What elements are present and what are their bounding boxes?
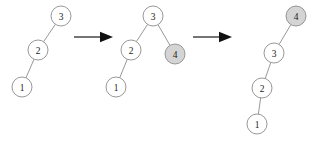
arrows-layer xyxy=(74,32,232,42)
tree-edge xyxy=(136,24,147,41)
arrow-head xyxy=(100,32,113,42)
node-label: 3 xyxy=(272,49,277,59)
tree-node-3: 3 xyxy=(264,43,284,63)
edges-layer xyxy=(26,24,291,114)
nodes-layer: 32132414321 xyxy=(12,6,306,134)
tree-edge xyxy=(279,25,291,45)
tree-node-2: 2 xyxy=(121,40,141,60)
transition-arrow-1 xyxy=(74,32,113,42)
tree-edge xyxy=(44,24,56,41)
tree-node-2: 2 xyxy=(28,40,48,60)
node-label: 1 xyxy=(20,83,25,93)
tree-node-3: 3 xyxy=(51,6,71,26)
tree-node-1: 1 xyxy=(12,77,32,97)
tree-node-1: 1 xyxy=(247,114,267,134)
arrow-head xyxy=(219,32,232,42)
node-label: 3 xyxy=(59,12,64,22)
tree-node-3: 3 xyxy=(143,6,163,26)
tree-node-2: 2 xyxy=(252,78,272,98)
tree-edge xyxy=(120,59,127,77)
node-label: 3 xyxy=(151,12,156,22)
tree-edge xyxy=(258,98,260,114)
node-label: 4 xyxy=(173,50,178,60)
node-label: 2 xyxy=(129,46,134,56)
tree-node-4: 4 xyxy=(165,44,185,64)
node-label: 4 xyxy=(294,12,299,22)
tree-edge xyxy=(265,62,271,78)
node-label: 2 xyxy=(36,46,41,56)
node-label: 1 xyxy=(114,83,119,93)
tree-edge xyxy=(158,25,170,46)
transition-arrow-2 xyxy=(193,32,232,42)
node-label: 1 xyxy=(255,120,260,130)
node-label: 2 xyxy=(260,84,265,94)
tree-node-4: 4 xyxy=(286,6,306,26)
tree-transformation-figure: 32132414321 xyxy=(0,0,322,144)
figure-canvas: 32132414321 xyxy=(0,0,322,144)
tree-node-1: 1 xyxy=(106,77,126,97)
tree-edge xyxy=(26,59,34,78)
